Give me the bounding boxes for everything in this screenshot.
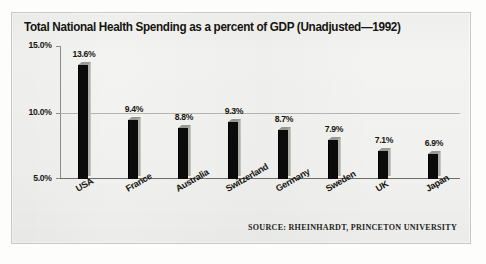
bar-sweden: [328, 140, 337, 179]
category-label-uk: UK: [374, 179, 390, 194]
bar-value-label: 6.9%: [420, 138, 448, 148]
bar-value-label: 7.9%: [320, 124, 348, 134]
y-axis-tick-label: 10.0%: [29, 107, 52, 117]
bar-france: [128, 120, 137, 179]
chart-panel: Total National Health Spending as a perc…: [11, 12, 471, 244]
bar-value-label: 8.8%: [170, 112, 198, 122]
y-axis-tick-label: 15.0%: [29, 40, 52, 50]
y-tick-15: [56, 46, 60, 47]
x-axis-baseline: [60, 178, 460, 179]
bar-value-label: 13.6%: [70, 49, 98, 59]
bar-usa: [78, 65, 87, 179]
bar-front-face: [328, 140, 338, 179]
y-axis-tick-label: 5.0%: [33, 173, 52, 183]
bar-switzerland: [228, 122, 237, 179]
bar-germany: [278, 130, 287, 179]
bar-front-face: [228, 122, 238, 179]
bar-value-label: 9.3%: [220, 106, 248, 116]
bar-japan: [428, 154, 437, 179]
bar-front-face: [428, 154, 438, 179]
plot-area: 13.6%9.4%8.8%9.3%8.7%7.9%7.1%6.9%: [60, 46, 460, 179]
y-tick-10: [56, 113, 60, 114]
bar-value-label: 7.1%: [370, 135, 398, 145]
bar-value-label: 8.7%: [270, 114, 298, 124]
bar-uk: [378, 151, 387, 179]
bar-front-face: [128, 120, 138, 179]
y-tick-5: [56, 178, 60, 179]
bar-australia: [178, 128, 187, 179]
chart-title: Total National Health Spending as a perc…: [24, 20, 436, 34]
source-note: SOURCE: RHEINHARDT, PRINCETON UNIVERSITY: [248, 223, 457, 232]
bar-front-face: [378, 151, 388, 179]
bar-front-face: [278, 130, 288, 179]
bar-front-face: [178, 128, 188, 179]
bar-front-face: [78, 65, 88, 179]
bar-value-label: 9.4%: [120, 104, 148, 114]
